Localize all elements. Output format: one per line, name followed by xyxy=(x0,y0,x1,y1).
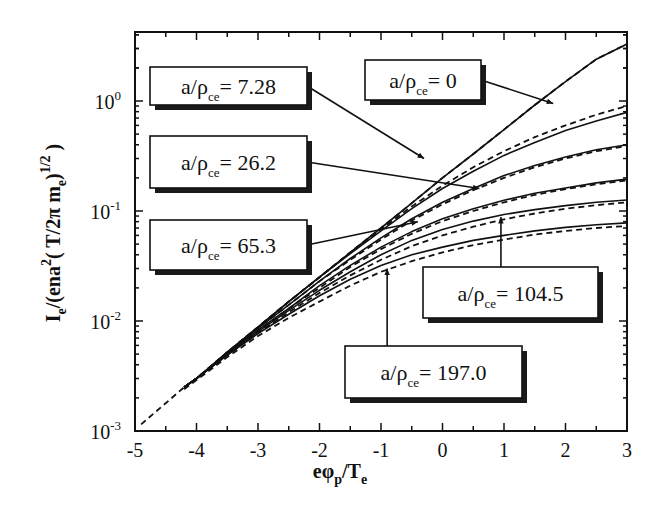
x-axis-title: eφp/Te xyxy=(313,460,367,487)
annotation-box-2: a/ρce= 26.2 xyxy=(150,136,479,193)
x-tick-label: -2 xyxy=(311,439,328,461)
x-tick-label: -3 xyxy=(250,439,267,461)
annotation-box-4: a/ρce= 104.5 xyxy=(423,217,603,323)
annotation-box-1: a/ρce= 0 xyxy=(365,60,553,105)
leader-line xyxy=(307,162,479,189)
y-tick-label: 10-3 xyxy=(90,418,121,443)
x-tick-label: 0 xyxy=(438,439,448,461)
x-tick-label: -1 xyxy=(373,439,390,461)
x-tick-label: 2 xyxy=(561,439,571,461)
y-axis-title: Ie/(ena2( T/2π me)1/2 ) xyxy=(38,144,69,323)
chart: a/ρce= 7.28a/ρce= 0a/ρce= 26.2a/ρce= 65.… xyxy=(0,0,663,531)
y-tick-label: 100 xyxy=(95,88,122,113)
arrow-head-icon xyxy=(546,99,553,104)
x-tick-label: -5 xyxy=(127,439,144,461)
x-tick-label: 1 xyxy=(499,439,509,461)
leader-line xyxy=(307,222,418,245)
x-tick-label: 3 xyxy=(622,439,632,461)
y-tick-label: 10-2 xyxy=(90,308,121,333)
leader-line xyxy=(481,80,553,103)
x-tick-label: -4 xyxy=(188,439,205,461)
series-line-extension xyxy=(141,387,184,424)
y-tick-label: 10-1 xyxy=(90,198,121,223)
